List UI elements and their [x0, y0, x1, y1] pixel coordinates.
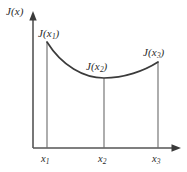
figure-container: J(x) J(x1) J(x2) J(x3) x1 x2 x3 [0, 0, 187, 172]
x-tick-label-x2-subscript: 2 [103, 157, 107, 166]
point-label-jx1: J(x1) [38, 28, 59, 39]
point-label-jx2-variable: x [95, 60, 100, 72]
x-tick-label-x3-base: x [152, 153, 157, 164]
curve-figure-svg [0, 0, 187, 172]
point-label-jx3-variable: x [152, 46, 157, 58]
x-tick-label-x2-base: x [98, 153, 103, 164]
x-tick-label-x1-subscript: 1 [46, 157, 50, 166]
point-label-jx3-subscript: 3 [157, 51, 161, 60]
y-axis-label-close-paren: ) [20, 5, 24, 17]
x-tick-label-x3-subscript: 3 [157, 157, 161, 166]
point-label-jx2-function: J [86, 60, 91, 72]
y-axis-label: J(x) [6, 6, 24, 17]
x-tick-label-x1: x1 [41, 154, 49, 165]
y-axis-arrowhead-icon [29, 11, 36, 21]
x-tick-label-x3: x3 [152, 154, 160, 165]
point-label-jx2: J(x2) [86, 61, 107, 72]
point-label-jx1-function: J [38, 27, 43, 39]
point-label-jx3: J(x3) [143, 47, 164, 58]
x-tick-label-x1-base: x [41, 153, 46, 164]
x-tick-label-x2: x2 [98, 154, 106, 165]
point-label-jx1-subscript: 1 [52, 32, 56, 41]
point-label-jx2-subscript: 2 [100, 65, 104, 74]
point-label-jx3-function: J [143, 46, 148, 58]
point-label-jx1-variable: x [47, 27, 52, 39]
x-axis-arrowhead-icon [172, 144, 182, 151]
